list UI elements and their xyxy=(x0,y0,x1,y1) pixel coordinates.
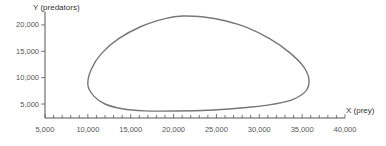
y-tick-label: 20,000 xyxy=(16,20,39,29)
x-tick-label: 20,000 xyxy=(162,125,185,134)
x-tick-label: 25,000 xyxy=(205,125,228,134)
phase-cycle-curve xyxy=(88,16,309,111)
plot-area xyxy=(88,16,309,111)
x-tick-label: 5,000 xyxy=(36,125,55,134)
x-tick-label: 40,000 xyxy=(334,125,357,134)
axes: 5,00010,00015,00020,00025,00030,00035,00… xyxy=(16,12,356,134)
x-axis-label: X (prey) xyxy=(346,106,375,115)
y-tick-label: 10,000 xyxy=(16,73,39,82)
x-tick-label: 10,000 xyxy=(76,125,99,134)
x-tick-label: 30,000 xyxy=(248,125,271,134)
x-tick-label: 35,000 xyxy=(291,125,314,134)
phase-plot-chart: 5,00010,00015,00020,00025,00030,00035,00… xyxy=(0,0,386,146)
y-tick-label: 15,000 xyxy=(16,47,39,56)
x-tick-label: 15,000 xyxy=(119,125,142,134)
y-axis-label: Y (predators) xyxy=(33,3,80,12)
y-tick-label: 5,000 xyxy=(20,100,39,109)
